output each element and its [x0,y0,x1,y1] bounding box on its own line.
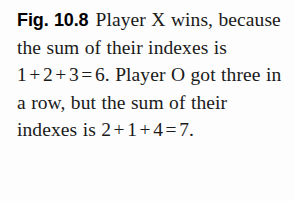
eq1-term-3: 3 [69,64,79,85]
eq2-operator-2: + [137,119,153,140]
figure-label: Fig. 10.8 [17,10,89,30]
caption-segment-3: indexes is [148,37,227,58]
eq2-term-2: 1 [127,119,137,140]
eq2-term-3: 4 [153,119,163,140]
eq2-result: 7 [179,119,189,140]
eq1-result: 6 [95,64,105,85]
eq2-equals-sign: = [163,119,179,140]
eq1-operator-1: + [27,64,43,85]
eq1-equals-sign: = [79,64,95,85]
equation-two: 2+1+4=7. [101,119,194,140]
equation-one: 1+2+3=6. [17,64,110,85]
figure-caption: Fig. 10.8Player X wins, because the sum … [17,6,289,143]
eq1-operator-2: + [53,64,69,85]
figure-caption-text: Fig. 10.8Player X wins, because the sum … [17,6,289,143]
eq1-term-2: 2 [43,64,53,85]
eq2-term-1: 2 [101,119,111,140]
caption-segment-1: Player X wins, [96,9,214,30]
eq1-term-1: 1 [17,64,27,85]
eq2-operator-1: + [111,119,127,140]
eq2-period: . [189,119,194,140]
eq1-period: . [105,64,110,85]
